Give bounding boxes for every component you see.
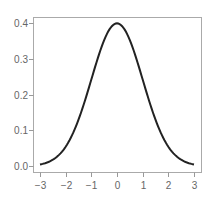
density-curve	[40, 23, 194, 164]
x-tick-label: 3	[192, 180, 198, 191]
chart: 0.00.10.20.30.4 −3−2−10123	[0, 0, 209, 201]
y-tick-label: 0.1	[14, 125, 28, 136]
y-tick-label: 0.3	[14, 54, 28, 65]
x-axis: −3−2−10123	[35, 173, 198, 192]
x-tick-label: −1	[86, 180, 98, 191]
x-tick-label: −2	[61, 180, 73, 191]
x-tick-label: 0	[115, 180, 121, 191]
x-tick-label: 1	[141, 180, 147, 191]
x-tick-label: 2	[166, 180, 172, 191]
y-tick-label: 0.2	[14, 90, 28, 101]
y-axis: 0.00.10.20.30.4	[14, 18, 33, 172]
y-tick-label: 0.4	[14, 18, 28, 29]
y-tick-label: 0.0	[14, 161, 28, 172]
plot-frame	[34, 18, 202, 173]
x-tick-label: −3	[35, 180, 47, 191]
